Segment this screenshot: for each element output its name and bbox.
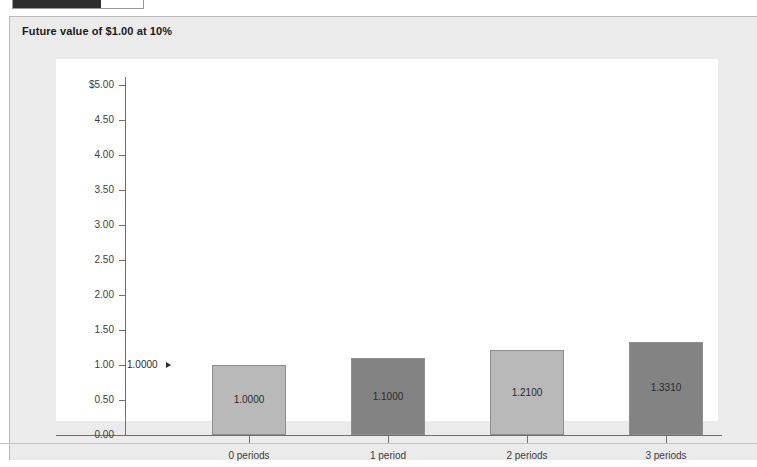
y-axis-tick-label: 4.00 [62, 149, 114, 160]
y-axis-tick-label-wrap: 1.50 [56, 324, 114, 336]
top-strip [0, 0, 757, 10]
y-axis-line [125, 77, 126, 435]
panel-bottom-rule [0, 443, 757, 444]
y-axis-tick-label: 1.50 [62, 324, 114, 335]
x-axis-tick [249, 436, 250, 443]
y-axis-tick-label: 3.00 [62, 219, 114, 230]
y-axis-tick [119, 190, 126, 191]
y-axis-tick-label-wrap: 3.00 [56, 219, 114, 231]
y-axis-tick-label-wrap: 4.50 [56, 114, 114, 126]
y-axis-tick-label-wrap: $5.00 [56, 79, 114, 91]
progress-fragment-fill [13, 0, 101, 8]
y-axis-tick [119, 295, 126, 296]
y-axis-tick [119, 85, 126, 86]
y-axis-tick-label: 0.50 [62, 394, 114, 405]
y-axis-tick [119, 365, 126, 366]
y-axis-tick [119, 330, 126, 331]
bar-value-label: 1.3310 [630, 382, 702, 393]
y-axis-tick-label: 1.00 [62, 359, 114, 370]
bar: 1.1000 [351, 358, 425, 435]
x-axis-category-label: 0 periods [180, 450, 319, 461]
y-axis-tick [119, 260, 126, 261]
value-callout-label: 1.0000 [127, 359, 158, 370]
y-axis-tick [119, 400, 126, 401]
progress-fragment[interactable] [12, 0, 144, 9]
x-axis-tick [666, 436, 667, 443]
y-axis-tick-label-wrap: 0.00 [56, 429, 114, 441]
y-axis-tick [119, 155, 126, 156]
page-title: Future value of $1.00 at 10% [22, 25, 172, 37]
y-axis-tick-label-wrap: 0.50 [56, 394, 114, 406]
y-axis-tick-label: $5.00 [62, 79, 114, 90]
y-axis-tick-label-wrap: 2.00 [56, 289, 114, 301]
y-axis-tick-label: 0.00 [62, 429, 114, 440]
x-axis-category-label: 3 periods [597, 450, 736, 461]
bar-value-label: 1.0000 [213, 394, 285, 405]
bar: 1.3310 [629, 342, 703, 435]
bar-value-label: 1.2100 [491, 387, 563, 398]
y-axis-tick [119, 225, 126, 226]
y-axis-tick-label: 2.50 [62, 254, 114, 265]
x-axis-line [56, 435, 722, 436]
bar: 1.0000 [212, 365, 286, 435]
y-axis-tick-label: 3.50 [62, 184, 114, 195]
y-axis-tick-label: 2.00 [62, 289, 114, 300]
value-callout-arrow-icon [166, 362, 171, 368]
x-axis-category-label: 1 period [319, 450, 458, 461]
chart-panel: Future value of $1.00 at 10% $5.004.504.… [9, 16, 757, 460]
x-axis-tick [388, 436, 389, 443]
y-axis-tick-label-wrap: 4.00 [56, 149, 114, 161]
y-axis-tick-label-wrap: 2.50 [56, 254, 114, 266]
y-axis-tick-label: 4.50 [62, 114, 114, 125]
y-axis-tick [119, 435, 126, 436]
bar-value-label: 1.1000 [352, 391, 424, 402]
y-axis-tick-label-wrap: 3.50 [56, 184, 114, 196]
x-axis-category-label: 2 periods [458, 450, 597, 461]
bar: 1.2100 [490, 350, 564, 435]
plot-area: $5.004.504.003.503.002.502.001.501.000.5… [56, 59, 718, 421]
x-axis-tick [527, 436, 528, 443]
y-axis-tick [119, 120, 126, 121]
y-axis-tick-label-wrap: 1.00 [56, 359, 114, 371]
